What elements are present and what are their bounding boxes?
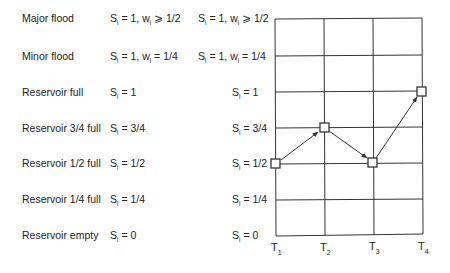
marker-t3 [368, 158, 377, 167]
transition-arrows [281, 97, 417, 160]
marker-t4 [417, 87, 426, 96]
marker-t2 [320, 123, 329, 132]
state-grid [0, 0, 450, 273]
time-label-t2: T2 [320, 241, 331, 259]
marker-t1 [271, 159, 280, 168]
time-label-t3: T3 [369, 240, 380, 258]
arrow-t1-t2 [281, 132, 318, 160]
time-label-t4: T4 [418, 240, 429, 258]
time-label-t1: T1 [271, 241, 282, 259]
grid-lines [275, 18, 423, 236]
arrow-t2-t3 [329, 131, 367, 158]
